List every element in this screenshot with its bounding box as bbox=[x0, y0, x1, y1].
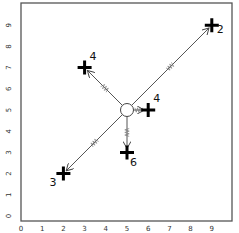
y-tick-label: 4 bbox=[5, 128, 13, 133]
spring-icon bbox=[101, 85, 109, 93]
arrow bbox=[66, 115, 122, 171]
x-tick-label: 5 bbox=[125, 225, 129, 233]
arrow bbox=[87, 70, 122, 105]
y-axis-ticks: 0123456789 bbox=[5, 23, 13, 218]
point-label: 4 bbox=[153, 92, 160, 105]
center-circle-icon bbox=[121, 104, 134, 117]
x-tick-label: 0 bbox=[19, 225, 23, 233]
points: 24463 bbox=[49, 18, 223, 188]
force-diagram: 0123456789 0123456789 24463 bbox=[0, 0, 239, 233]
point-label: 4 bbox=[90, 50, 97, 63]
spring-icon bbox=[166, 62, 174, 70]
y-tick-label: 5 bbox=[5, 108, 13, 112]
spring-icon bbox=[91, 139, 99, 147]
y-tick-label: 3 bbox=[5, 150, 13, 154]
point-label: 6 bbox=[130, 156, 137, 169]
x-tick-label: 8 bbox=[188, 225, 192, 233]
y-tick-label: 8 bbox=[5, 44, 13, 48]
arrows bbox=[66, 28, 209, 171]
y-tick-label: 7 bbox=[5, 65, 13, 69]
x-tick-label: 4 bbox=[104, 225, 109, 233]
arrow bbox=[132, 28, 209, 105]
y-tick-label: 6 bbox=[5, 86, 13, 91]
cross-marker-icon bbox=[141, 103, 155, 117]
y-tick-label: 1 bbox=[5, 193, 13, 197]
y-tick-label: 0 bbox=[5, 214, 13, 218]
x-tick-label: 2 bbox=[61, 225, 65, 233]
y-tick-label: 9 bbox=[5, 23, 13, 27]
point-label: 3 bbox=[49, 176, 56, 189]
x-tick-label: 3 bbox=[82, 225, 86, 233]
x-tick-label: 9 bbox=[210, 225, 214, 233]
y-tick-label: 2 bbox=[5, 171, 13, 175]
x-tick-label: 7 bbox=[167, 225, 171, 233]
x-tick-label: 6 bbox=[146, 225, 151, 233]
point-label: 2 bbox=[217, 23, 224, 36]
x-axis-ticks: 0123456789 bbox=[19, 225, 214, 233]
x-tick-label: 1 bbox=[40, 225, 44, 233]
